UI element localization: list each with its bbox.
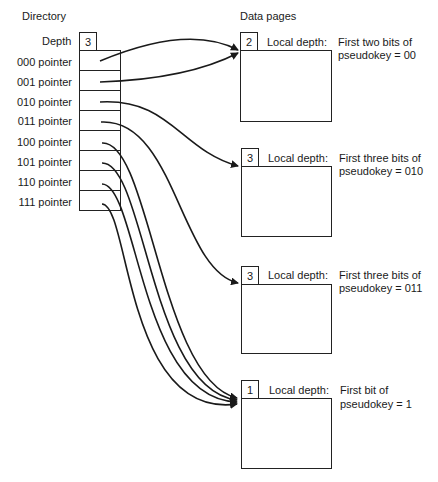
arrow-101 <box>102 163 237 400</box>
pointer-arrows <box>0 0 438 482</box>
arrow-110 <box>102 184 237 402</box>
arrow-000 <box>100 39 238 61</box>
arrow-001 <box>100 53 238 82</box>
arrow-011 <box>101 122 238 283</box>
arrow-111 <box>102 204 237 405</box>
